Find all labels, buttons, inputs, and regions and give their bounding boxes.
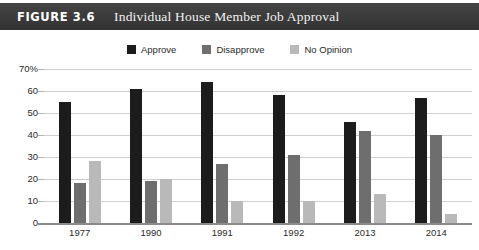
bar-disapprove[interactable]: [288, 155, 300, 223]
x-axis-label: 1992: [258, 227, 329, 243]
bar-groups: [44, 69, 472, 223]
y-axis-tick: 20: [0, 173, 38, 185]
gridline: [44, 223, 472, 224]
bar-group: [329, 69, 400, 223]
bar-group: [115, 69, 186, 223]
legend-swatch-icon: [290, 45, 299, 54]
figure-title: Individual House Member Job Approval: [114, 9, 339, 25]
bar-no-opinion[interactable]: [445, 214, 457, 223]
bar-disapprove[interactable]: [145, 181, 157, 223]
bar-approve[interactable]: [201, 82, 213, 223]
figure-title-bar: FIGURE 3.6 Individual House Member Job A…: [0, 3, 479, 30]
bar-no-opinion[interactable]: [89, 161, 101, 223]
legend-item[interactable]: Disapprove: [202, 44, 264, 55]
bar-disapprove[interactable]: [216, 164, 228, 223]
legend-swatch-icon: [127, 45, 136, 54]
bar-no-opinion[interactable]: [231, 201, 243, 223]
x-axis-labels: 197719901991199220132014: [44, 227, 472, 243]
bar-approve[interactable]: [130, 89, 142, 223]
bar-no-opinion[interactable]: [303, 201, 315, 223]
x-axis-label: 1991: [187, 227, 258, 243]
bar-approve[interactable]: [273, 95, 285, 223]
y-axis-tick-label: 30: [27, 151, 38, 162]
y-axis-tick: 70%: [0, 63, 38, 75]
bar-disapprove[interactable]: [359, 131, 371, 223]
bar-group-bars: [44, 69, 115, 223]
y-axis-tick: 10: [0, 195, 38, 207]
bar-approve[interactable]: [59, 102, 71, 223]
bar-group-bars: [115, 69, 186, 223]
bar-disapprove[interactable]: [74, 183, 86, 223]
bar-group: [44, 69, 115, 223]
bar-group-bars: [401, 69, 472, 223]
y-axis-tick-label: 50: [27, 107, 38, 118]
legend-label: Disapprove: [216, 44, 264, 55]
bar-group: [187, 69, 258, 223]
y-axis-tick-label: 40: [27, 129, 38, 140]
y-axis-tick: 30: [0, 151, 38, 163]
legend-label: Approve: [141, 44, 176, 55]
x-axis-label: 1990: [115, 227, 186, 243]
legend-item[interactable]: Approve: [127, 44, 176, 55]
figure-container: FIGURE 3.6 Individual House Member Job A…: [0, 0, 479, 250]
bar-group: [401, 69, 472, 223]
x-axis-label: 2013: [329, 227, 400, 243]
bar-group-bars: [329, 69, 400, 223]
bar-approve[interactable]: [344, 122, 356, 223]
legend-item[interactable]: No Opinion: [290, 44, 352, 55]
chart-legend: ApproveDisapproveNo Opinion: [0, 40, 479, 58]
bar-group-bars: [187, 69, 258, 223]
bar-approve[interactable]: [415, 98, 427, 223]
y-axis-ticks: 70%6050403020100: [0, 69, 38, 223]
y-axis-tick: 50: [0, 107, 38, 119]
y-axis-tick: 40: [0, 129, 38, 141]
x-axis-label: 2014: [401, 227, 472, 243]
y-axis-tick-label: 60: [27, 85, 38, 96]
bar-group: [258, 69, 329, 223]
y-axis-tick-label: 20: [27, 173, 38, 184]
x-axis-label: 1977: [44, 227, 115, 243]
legend-swatch-icon: [202, 45, 211, 54]
bar-group-bars: [258, 69, 329, 223]
y-axis-tick: 0: [0, 217, 38, 229]
bar-no-opinion[interactable]: [374, 194, 386, 223]
figure-number-label: FIGURE 3.6: [17, 10, 95, 24]
bar-no-opinion[interactable]: [160, 179, 172, 223]
y-axis-tick-label: 10: [27, 195, 38, 206]
y-axis-tick-label: 70%: [19, 63, 38, 74]
y-axis-tick: 60: [0, 85, 38, 97]
bar-disapprove[interactable]: [430, 135, 442, 223]
legend-label: No Opinion: [304, 44, 352, 55]
